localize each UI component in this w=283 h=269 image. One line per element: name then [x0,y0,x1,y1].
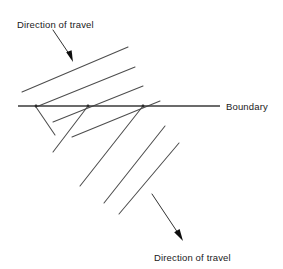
refracted-wavefront-4 [104,126,165,203]
boundary-label: Boundary [226,101,268,112]
crossing-point-2 [87,105,90,108]
top-direction-arrow [53,30,73,62]
top-direction-label: Direction of travel [17,19,94,30]
wave-refraction-diagram: Direction of travel Direction of travel … [0,0,283,269]
crossing-point-1 [35,105,38,108]
bottom-direction-arrow [152,194,183,241]
incident-wavefront-group [22,47,160,137]
refracted-wavefront-1 [36,107,55,135]
refracted-wavefront-5 [119,143,179,214]
bottom-direction-arrow-head [174,229,183,241]
incident-wavefront-2 [36,67,135,107]
bottom-direction-label: Direction of travel [154,252,231,263]
refracted-wavefront-3 [80,106,143,186]
diagram-canvas [0,0,283,269]
crossing-point-3 [142,105,145,108]
incident-wavefront-3 [53,86,143,122]
incident-wavefront-1 [22,47,128,92]
bottom-direction-arrow-shaft [152,194,178,233]
top-direction-arrow-head [66,50,73,62]
refracted-wavefront-2 [53,106,88,152]
